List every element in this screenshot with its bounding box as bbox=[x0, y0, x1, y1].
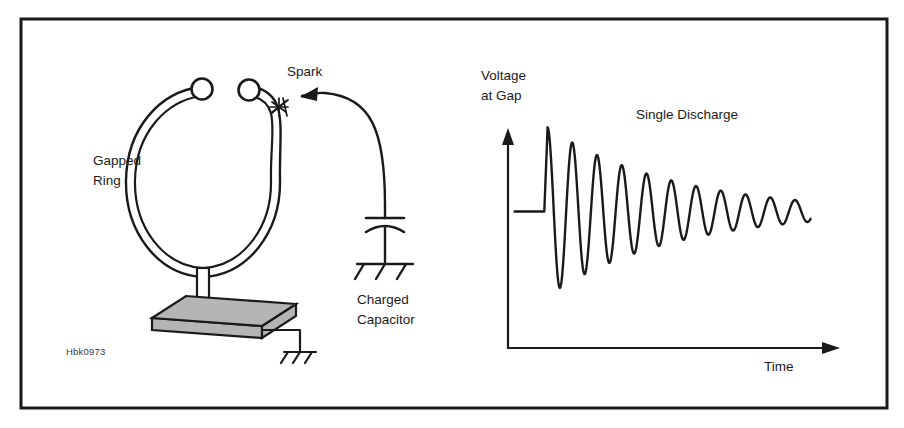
capacitor-label-line2: Capacitor bbox=[357, 312, 415, 327]
figure-frame bbox=[21, 19, 887, 408]
y-axis-label-line2: at Gap bbox=[481, 88, 522, 103]
figure-canvas: Gapped Ring Spark Charged Capacitor Hbk0… bbox=[0, 0, 904, 428]
ring-terminal-ball-icon bbox=[192, 79, 213, 100]
figure-root: Gapped Ring Spark Charged Capacitor Hbk0… bbox=[0, 0, 904, 428]
y-axis-label-line1: Voltage bbox=[481, 68, 526, 83]
capacitor-label-line1: Charged bbox=[357, 292, 409, 307]
spark-label: Spark bbox=[287, 64, 323, 79]
ring-terminal-ball-icon bbox=[239, 80, 260, 101]
figure-id-code: Hbk0973 bbox=[66, 346, 105, 357]
x-axis-label: Time bbox=[764, 359, 794, 374]
gapped-ring-label-line1: Gapped bbox=[93, 153, 141, 168]
single-discharge-annotation: Single Discharge bbox=[636, 107, 738, 122]
gapped-ring-label-line2: Ring bbox=[93, 173, 121, 188]
